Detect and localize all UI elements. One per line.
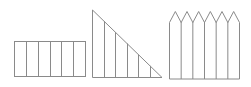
picket-fence-shape	[170, 12, 240, 79]
rectangle-shape	[15, 42, 86, 77]
right-triangle-shape	[93, 11, 162, 78]
strip-shapes-diagram	[0, 0, 251, 87]
